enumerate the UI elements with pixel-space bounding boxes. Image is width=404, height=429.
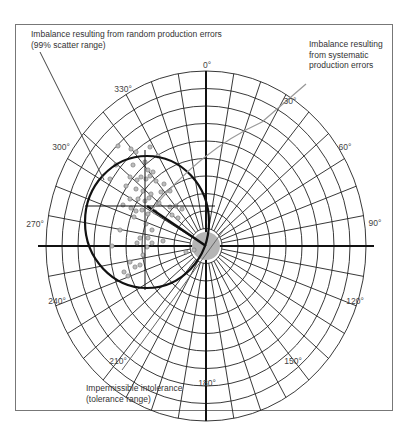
scatter-point [150, 241, 154, 245]
scatter-point [128, 260, 132, 264]
scatter-point [134, 187, 138, 191]
scatter-point [108, 177, 112, 181]
scatter-point [128, 175, 132, 179]
angle-label-0: 0° [203, 60, 211, 70]
scatter-point [148, 174, 152, 178]
scatter-point [126, 274, 130, 278]
scatter-point [162, 182, 166, 186]
figure-frame [16, 25, 393, 411]
scatter-point [133, 265, 137, 269]
random-errors-annotation: Imbalance resulting from random producti… [31, 29, 222, 50]
scatter-point [146, 236, 150, 240]
scatter-point [146, 168, 150, 172]
scatter-point [122, 270, 126, 274]
scatter-point [138, 263, 142, 267]
scatter-point [128, 197, 132, 201]
angle-label-270: 270° [26, 219, 44, 229]
scatter-point [161, 239, 165, 243]
scatter-point [110, 244, 114, 248]
scatter-point [192, 248, 196, 252]
angle-label-150: 150° [284, 356, 302, 366]
scatter-point [135, 241, 139, 245]
scatter-point [151, 170, 155, 174]
scatter-point [149, 192, 153, 196]
systematic-errors-line1: Imbalance resulting [309, 39, 383, 50]
scatter-point [159, 190, 163, 194]
angle-label-330: 330° [114, 84, 132, 94]
scatter-point [154, 179, 158, 183]
scatter-point [134, 209, 138, 213]
systematic-errors-line2: from systematic [309, 50, 383, 61]
scatter-point [138, 236, 142, 240]
angle-label-240: 240° [48, 296, 66, 306]
scatter-point [176, 216, 180, 220]
random-errors-line1: Imbalance resulting from random producti… [31, 29, 222, 40]
tolerance-annotation: Impermissible intolerance (tolerance ran… [86, 383, 182, 404]
angle-label-210: 210° [109, 356, 127, 366]
scatter-point [184, 250, 188, 254]
systematic-errors-annotation: Imbalance resulting from systematic prod… [309, 39, 383, 71]
angle-label-300: 300° [52, 142, 70, 152]
angle-label-90: 90° [369, 218, 382, 228]
scatter-point [132, 215, 136, 219]
scatter-point [116, 144, 120, 148]
scatter-point [150, 228, 154, 232]
random-errors-line2: (99% scatter range) [31, 40, 222, 51]
scatter-point [148, 145, 152, 149]
scatter-point [170, 213, 174, 217]
scatter-point [141, 189, 145, 193]
scatter-point [135, 178, 139, 182]
scatter-point [131, 163, 135, 167]
scatter-point [136, 197, 140, 201]
scatter-point [118, 228, 122, 232]
systematic-errors-line3: production errors [309, 60, 383, 71]
angle-label-60: 60° [339, 142, 352, 152]
scatter-point [134, 150, 138, 154]
scatter-point [180, 207, 184, 211]
angle-label-180: 180° [198, 378, 216, 388]
tolerance-line1: Impermissible intolerance [86, 383, 182, 394]
tolerance-line2: (tolerance range) [86, 394, 182, 405]
scatter-point [124, 184, 128, 188]
scatter-point [141, 253, 145, 257]
angle-label-30: 30° [284, 96, 297, 106]
scatter-point [147, 196, 151, 200]
scatter-point [129, 147, 133, 151]
scatter-point [139, 175, 143, 179]
angle-label-120: 120° [346, 296, 364, 306]
scatter-point [145, 245, 149, 249]
imbalance-polar-diagram: Imbalance resulting from random producti… [0, 0, 404, 429]
scatter-point [140, 208, 144, 212]
scatter-point [146, 212, 150, 216]
